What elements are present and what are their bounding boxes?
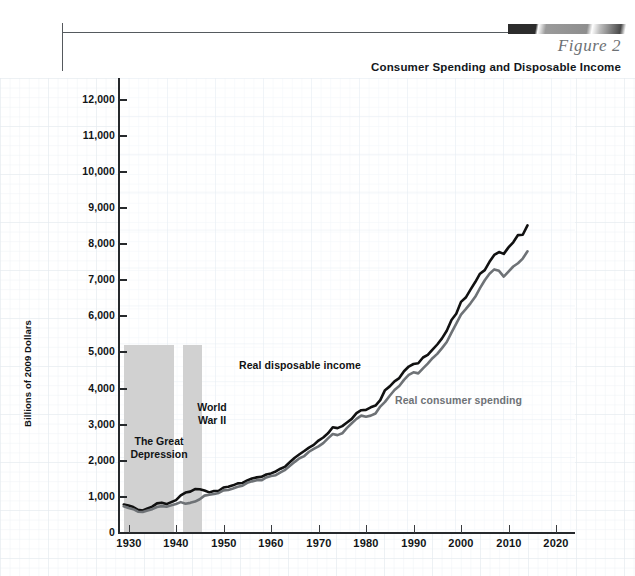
- x-tick-2020: [556, 525, 557, 533]
- y-tick-12000: [120, 99, 127, 101]
- y-tick-label-8000: 8,000: [15, 237, 115, 249]
- y-tick-8000: [120, 243, 127, 245]
- annotation-world-war-ii: World War II: [182, 401, 242, 427]
- figure-title: Consumer Spending and Disposable Income: [371, 61, 621, 73]
- header-swatch-decoration: [508, 24, 635, 34]
- x-tick-1960: [271, 525, 272, 533]
- y-tick-11000: [120, 135, 127, 137]
- y-tick-0: [120, 532, 127, 534]
- x-tick-2000: [461, 525, 462, 533]
- figure-number-label: Figure 2: [558, 36, 621, 56]
- x-tick-1980: [366, 525, 367, 533]
- figure-page: Figure 2 Consumer Spending and Disposabl…: [0, 0, 635, 576]
- y-tick-label-2000: 2,000: [15, 454, 115, 466]
- y-axis-line: [118, 78, 120, 533]
- y-tick-5000: [120, 351, 127, 353]
- x-tick-1930: [129, 525, 130, 533]
- annotation-world-war-ii-line1: World: [182, 401, 242, 414]
- annotation-world-war-ii-line2: War II: [182, 414, 242, 427]
- header-rule: [62, 32, 575, 33]
- y-tick-4000: [120, 388, 127, 390]
- y-tick-label-10000: 10,000: [15, 165, 115, 177]
- y-tick-label-7000: 7,000: [15, 273, 115, 285]
- y-tick-label-1000: 1,000: [15, 490, 115, 502]
- line-real-consumer-spending: [124, 251, 528, 512]
- x-tick-1940: [176, 525, 177, 533]
- y-tick-label-9000: 9,000: [15, 201, 115, 213]
- annotation-great-depression-line1: The Great: [118, 435, 200, 448]
- y-tick-1000: [120, 496, 127, 498]
- x-tick-1950: [224, 525, 225, 533]
- y-tick-10000: [120, 171, 127, 173]
- y-tick-6000: [120, 315, 127, 317]
- chart-container: 01,0002,0003,0004,0005,0006,0007,0008,00…: [0, 78, 635, 576]
- series-label-real-disposable-income: Real disposable income: [239, 359, 361, 371]
- x-tick-1990: [414, 525, 415, 533]
- y-tick-label-11000: 11,000: [15, 129, 115, 141]
- y-tick-label-12000: 12,000: [15, 93, 115, 105]
- x-axis-line: [118, 532, 575, 534]
- x-tick-label-2020: 2020: [526, 537, 586, 549]
- y-tick-7000: [120, 279, 127, 281]
- y-axis-title: Billions of 2009 Dollars: [22, 304, 33, 444]
- header-left-tick: [62, 23, 63, 71]
- y-tick-9000: [120, 207, 127, 209]
- y-tick-3000: [120, 424, 127, 426]
- x-tick-1970: [319, 525, 320, 533]
- x-tick-2010: [509, 525, 510, 533]
- series-label-real-consumer-spending: Real consumer spending: [395, 394, 522, 406]
- annotation-great-depression-line2: Depression: [118, 448, 200, 461]
- annotation-great-depression: The Great Depression: [118, 435, 200, 461]
